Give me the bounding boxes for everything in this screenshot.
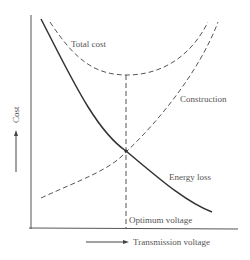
y-axis-label: Cost [11, 106, 21, 123]
x-axis [29, 228, 238, 229]
y-axis-title: Cost [11, 106, 21, 172]
energy-loss-label: Energy loss [169, 172, 212, 182]
optimum-voltage-label: Optimum voltage [129, 215, 192, 225]
x-arrowhead-icon [123, 240, 129, 244]
x-axis-label: Transmission voltage [133, 237, 210, 247]
cost-voltage-diagram: Total cost Construction Energy loss Opti… [0, 0, 250, 260]
construction-label: Construction [180, 94, 227, 104]
x-axis-title: Transmission voltage [86, 237, 210, 247]
y-arrowhead-icon [14, 130, 18, 136]
total-cost-label: Total cost [71, 39, 107, 49]
axes [29, 15, 238, 229]
intersection-point [124, 149, 127, 152]
